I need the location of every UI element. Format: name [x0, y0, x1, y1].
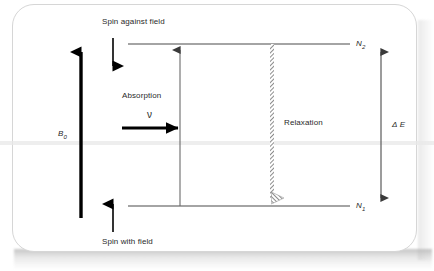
b0-subscript: 0	[63, 134, 66, 140]
label-absorption: Absorption	[122, 92, 161, 100]
label-delta-e-energy-gap: Δ E	[392, 121, 405, 129]
label-upper-level-n2: N2	[356, 40, 365, 50]
delta-symbol: Δ	[392, 120, 397, 129]
label-nu-frequency-symbol: ν	[147, 110, 152, 120]
label-spin-with-field: Spin with field	[102, 238, 153, 246]
n2-subscript: 2	[362, 44, 365, 50]
label-b0-magnetic-field: B0	[58, 130, 67, 140]
energy-symbol: E	[400, 120, 405, 129]
label-spin-against-field: Spin against field	[102, 18, 165, 26]
n1-subscript: 1	[362, 206, 365, 212]
label-relaxation: Relaxation	[284, 119, 323, 127]
label-lower-level-n1: N1	[356, 202, 365, 212]
screenshot-stage: Spin against field Spin with field Absor…	[0, 0, 434, 271]
